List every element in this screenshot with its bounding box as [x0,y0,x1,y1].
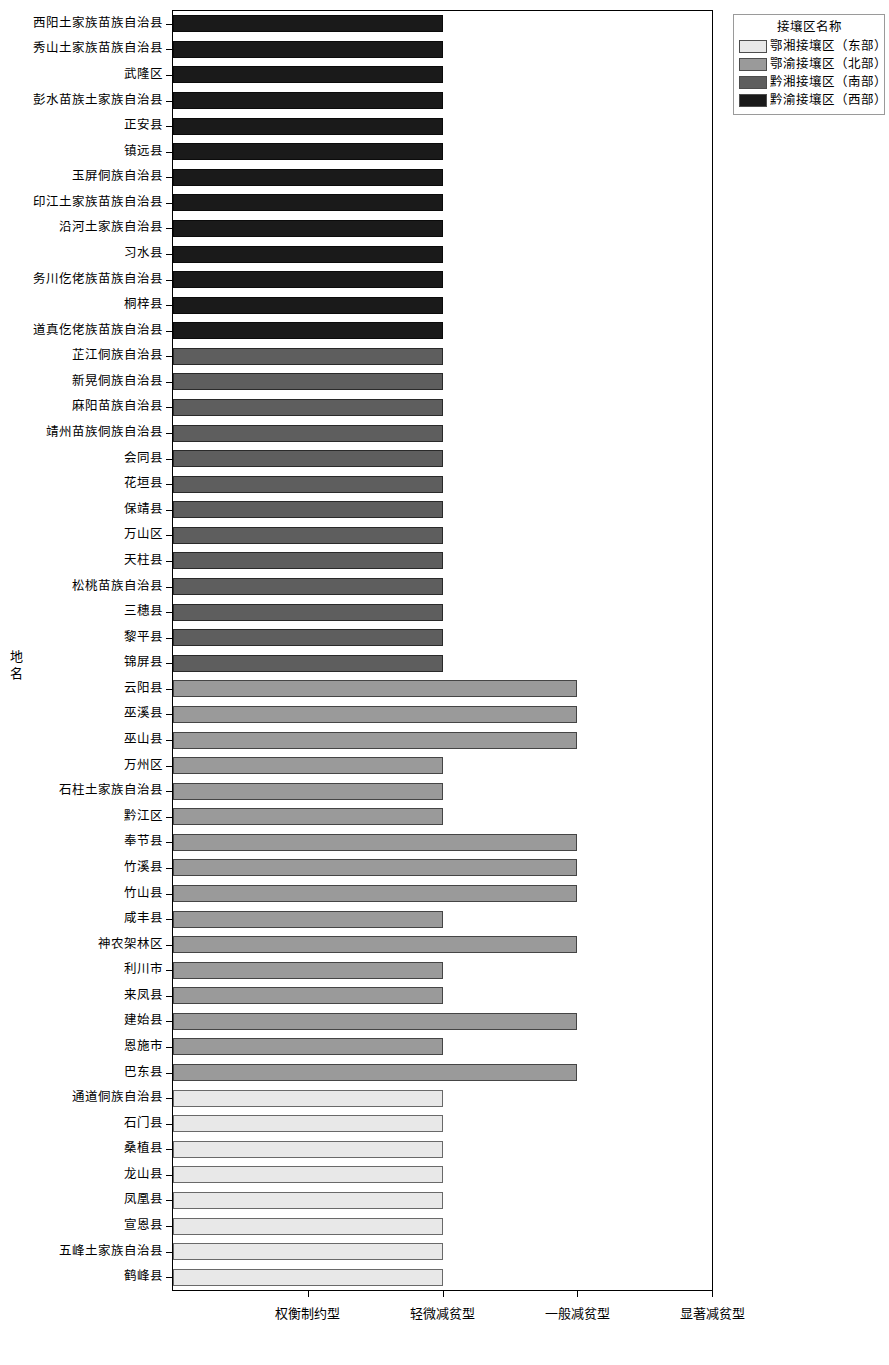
y-axis-tick [166,510,172,511]
y-axis-tick-label: 竹山县 [0,887,163,900]
y-axis-tick-label: 务川仡佬族苗族自治县 [0,273,163,286]
y-axis-tick [166,459,172,460]
y-axis-tick [166,714,172,715]
y-axis-tick-label: 五峰土家族自治县 [0,1245,163,1258]
bar [173,297,443,314]
horizontal-bar-chart: 西阳土家族苗族自治县秀山土家族苗族自治县武隆区彭水苗族土家族自治县正安县镇远县玉… [0,0,889,1365]
y-axis-tick [166,1200,172,1201]
y-axis-tick-label: 建始县 [0,1014,163,1027]
y-axis-tick [166,228,172,229]
y-axis-tick-label: 奉节县 [0,835,163,848]
y-axis-tick [166,970,172,971]
legend-entry: 黔渝接壤区（西部） [739,91,879,109]
y-axis-tick-label: 万州区 [0,759,163,772]
bar [173,1115,443,1132]
bar [173,220,443,237]
bar [173,1141,443,1158]
y-axis-tick-label: 黎平县 [0,631,163,644]
y-axis-tick [166,612,172,613]
y-axis-tick-label: 天柱县 [0,554,163,567]
y-axis-tick [166,356,172,357]
y-axis-tick [166,1047,172,1048]
bar [173,552,443,569]
legend-swatch [739,76,767,89]
legend-swatch [739,40,767,53]
legend-entries: 鄂湘接壤区（东部）鄂渝接壤区（北部）黔湘接壤区（南部）黔渝接壤区（西部） [739,37,879,109]
y-axis-tick [166,919,172,920]
x-axis-tick-label: 显著减贫型 [680,1303,745,1322]
legend-entry: 黔湘接壤区（南部） [739,73,879,91]
y-axis-tick-label: 竹溪县 [0,861,163,874]
y-axis-tick-label: 三穗县 [0,605,163,618]
bar [173,1192,443,1209]
x-axis-tick-label: 权衡制约型 [275,1303,340,1322]
y-axis-tick [166,842,172,843]
bar [173,373,443,390]
bar [173,962,443,979]
y-axis-tick [166,24,172,25]
bar [173,859,577,876]
bars-layer [173,11,712,1290]
bar [173,348,443,365]
y-axis-tick [166,817,172,818]
x-axis-tick-label: 轻微减贫型 [410,1303,475,1322]
bar [173,118,443,135]
bar [173,578,443,595]
bar [173,1090,443,1107]
y-axis-tick [166,49,172,50]
bar [173,911,443,928]
bar [173,629,443,646]
legend-label: 鄂渝接壤区（北部） [770,57,887,71]
bar [173,783,443,800]
y-axis-tick [166,535,172,536]
y-axis-tick [166,1124,172,1125]
y-axis-tick-label: 恩施市 [0,1040,163,1053]
bar [173,194,443,211]
y-axis-tick-label: 秀山土家族苗族自治县 [0,42,163,55]
bar [173,246,443,263]
y-axis-tick [166,1277,172,1278]
y-axis-tick-label: 利川市 [0,963,163,976]
bar [173,527,443,544]
y-axis-tick [166,1073,172,1074]
y-axis-tick [166,407,172,408]
bar [173,41,443,58]
x-axis-tick [712,1291,713,1297]
y-axis-tick-label: 通道侗族自治县 [0,1091,163,1104]
y-axis-tick-label: 神农架林区 [0,938,163,951]
y-axis-tick-label: 巴东县 [0,1066,163,1079]
y-axis-tick-label: 龙山县 [0,1168,163,1181]
y-axis-tick-label: 花垣县 [0,477,163,490]
y-axis-tick [166,75,172,76]
bar [173,680,577,697]
y-axis-tick [166,1252,172,1253]
y-axis-title: 地名 [8,648,24,682]
y-axis-tick [166,1226,172,1227]
legend: 接壤区名称 鄂湘接壤区（东部）鄂渝接壤区（北部）黔湘接壤区（南部）黔渝接壤区（西… [733,14,885,115]
y-axis-tick [166,280,172,281]
legend-entry: 鄂渝接壤区（北部） [739,55,879,73]
y-axis-tick-label: 石门县 [0,1117,163,1130]
y-axis-tick [166,331,172,332]
bar [173,885,577,902]
y-axis-tick [166,1175,172,1176]
y-axis-tick [166,894,172,895]
bar [173,604,443,621]
legend-entry: 鄂湘接壤区（东部） [739,37,879,55]
y-axis-tick [166,689,172,690]
bar [173,987,443,1004]
y-axis-tick-label: 印江土家族苗族自治县 [0,196,163,209]
bar [173,450,443,467]
y-axis-tick-label: 会同县 [0,452,163,465]
bar [173,1038,443,1055]
y-axis-title-char: 地 [8,648,24,665]
bar [173,501,443,518]
y-axis-tick [166,152,172,153]
y-axis-tick [166,1098,172,1099]
bar [173,1166,443,1183]
y-axis-tick-label: 鹤峰县 [0,1270,163,1283]
bar [173,757,443,774]
y-axis-tick-label: 道真仡佬族苗族自治县 [0,324,163,337]
y-axis-title-char: 名 [8,665,24,682]
legend-label: 黔渝接壤区（西部） [770,93,887,107]
